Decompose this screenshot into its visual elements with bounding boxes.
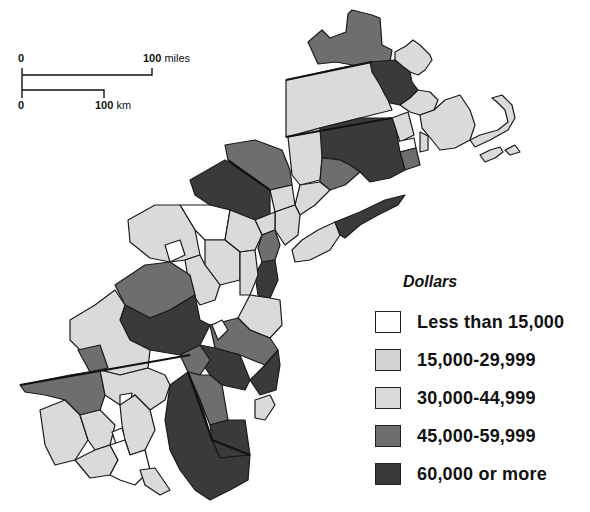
region-cape-cod <box>470 95 515 147</box>
region-md-stmarys <box>140 468 170 495</box>
legend-label: 45,000-59,999 <box>417 426 536 447</box>
region-nj-capemay <box>255 395 275 420</box>
region-nj-somerset <box>240 250 258 295</box>
legend-item: 45,000-59,999 <box>375 417 590 455</box>
legend: Dollars Less than 15,000 15,000-29,999 3… <box>375 273 590 493</box>
scale-km-start: 0 <box>18 99 24 111</box>
scale-miles-start: 0 <box>18 52 24 64</box>
legend-item: 30,000-44,999 <box>375 379 590 417</box>
region-islands <box>480 147 503 162</box>
legend-title: Dollars <box>403 273 590 291</box>
region-li-suffolk <box>335 195 405 238</box>
legend-swatch-60000-or-more <box>375 463 401 485</box>
legend-swatch-30000-44999 <box>375 387 401 409</box>
region-ny-westchester <box>275 205 300 245</box>
legend-label: 60,000 or more <box>417 464 547 485</box>
legend-item: 60,000 or more <box>375 455 590 493</box>
legend-swatch-15000-29999 <box>375 349 401 371</box>
region-islands-2 <box>505 145 520 155</box>
region-nj-hudson <box>255 260 278 298</box>
region-nh-north <box>308 10 392 66</box>
legend-label: 30,000-44,999 <box>417 388 536 409</box>
region-ct-fairfield <box>295 182 330 215</box>
legend-swatch-45000-59999 <box>375 425 401 447</box>
scale-km-end: 100 km <box>95 99 131 111</box>
legend-item: Less than 15,000 <box>375 303 590 341</box>
legend-label: Less than 15,000 <box>417 312 564 333</box>
legend-swatch-less-than-15000 <box>375 311 401 333</box>
scale-miles-end: 100 miles <box>143 52 190 64</box>
scale-bar <box>22 68 152 98</box>
legend-item: 15,000-29,999 <box>375 341 590 379</box>
legend-label: 15,000-29,999 <box>417 350 536 371</box>
region-ri-newport <box>420 132 428 152</box>
